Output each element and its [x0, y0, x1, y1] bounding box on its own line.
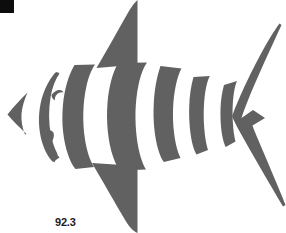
fish-silhouette-figure [0, 0, 286, 233]
body-stripe-1 [62, 65, 95, 170]
ventral-fin [92, 163, 138, 233]
head-side-bar [42, 72, 60, 163]
figure-canvas: 92.3 [0, 0, 286, 233]
body-stripe-3 [154, 66, 182, 162]
value-label: 92.3 [55, 216, 76, 228]
body-stripe-2 [107, 63, 147, 171]
body-stripe-4 [189, 76, 210, 155]
tail-fin [232, 24, 286, 207]
dorsal-fin [97, 0, 138, 68]
snout-wedge [8, 93, 28, 135]
